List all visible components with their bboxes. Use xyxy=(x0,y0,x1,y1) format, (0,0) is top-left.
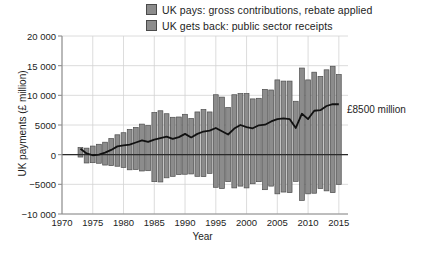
y-axis-tick: −5000 xyxy=(8,179,56,190)
bar-uk-gets-back xyxy=(324,155,329,191)
bar-uk-gets-back xyxy=(195,155,200,177)
bar-uk-gets-back xyxy=(232,155,237,188)
bar-uk-gets-back xyxy=(140,155,145,171)
bar-uk-gets-back xyxy=(170,155,175,177)
bar-uk-gets-back xyxy=(250,155,255,184)
bar-uk-gets-back xyxy=(269,155,274,186)
bar-uk-pays xyxy=(275,80,280,155)
bar-uk-gets-back xyxy=(263,155,268,190)
bar-uk-gets-back xyxy=(152,155,157,182)
legend-label-uk-pays: UK pays: gross contributions, rebate app… xyxy=(162,4,372,16)
bar-uk-pays xyxy=(170,117,175,154)
bar-uk-pays xyxy=(213,95,218,155)
bar-uk-pays xyxy=(127,129,132,154)
legend-label-uk-gets-back: UK gets back: public sector receipts xyxy=(162,20,333,32)
bar-uk-gets-back xyxy=(312,155,317,194)
y-axis-tick: 20 000 xyxy=(8,31,56,42)
bar-uk-gets-back xyxy=(121,155,126,168)
bar-uk-pays xyxy=(263,89,268,154)
bar-uk-gets-back xyxy=(201,155,206,177)
bar-uk-pays xyxy=(300,68,305,155)
legend-item-uk-pays: UK pays: gross contributions, rebate app… xyxy=(146,2,436,17)
bar-uk-gets-back xyxy=(133,155,138,170)
y-axis-tick: 10 000 xyxy=(8,90,56,101)
bar-uk-gets-back xyxy=(256,155,261,182)
bar-uk-pays xyxy=(115,135,120,155)
bar-uk-gets-back xyxy=(318,155,323,189)
bar-uk-gets-back xyxy=(238,155,243,186)
bar-uk-gets-back xyxy=(293,155,298,182)
legend-swatch-icon xyxy=(146,4,157,15)
bar-uk-pays xyxy=(146,126,151,155)
y-axis-tick: 0 xyxy=(8,149,56,160)
bar-uk-pays xyxy=(324,70,329,155)
net-contribution-annotation: £8500 million xyxy=(347,104,406,115)
y-axis-tick-labels: −10 000−50000500010 00015 00020 000 xyxy=(4,0,56,253)
bar-uk-gets-back xyxy=(146,155,151,171)
bar-uk-gets-back xyxy=(189,155,194,174)
bar-uk-gets-back xyxy=(336,155,341,185)
legend-item-uk-gets-back: UK gets back: public sector receipts xyxy=(146,18,436,33)
bar-uk-pays xyxy=(158,111,163,155)
bar-uk-pays xyxy=(318,76,323,154)
bar-uk-pays xyxy=(164,114,169,155)
bar-uk-pays xyxy=(90,146,95,155)
bar-uk-gets-back xyxy=(109,155,114,166)
bar-uk-gets-back xyxy=(220,155,225,189)
bar-uk-gets-back xyxy=(330,155,335,193)
y-axis-tick: 15 000 xyxy=(8,60,56,71)
bar-uk-gets-back xyxy=(164,155,169,178)
legend-swatch-icon xyxy=(146,20,157,31)
bar-uk-gets-back xyxy=(127,155,132,170)
bar-uk-gets-back xyxy=(207,155,212,174)
bar-uk-gets-back xyxy=(306,155,311,194)
bar-uk-gets-back xyxy=(183,155,188,175)
bar-uk-pays xyxy=(97,144,102,154)
bar-uk-gets-back xyxy=(226,155,231,182)
bar-uk-pays xyxy=(330,66,335,154)
bar-uk-gets-back xyxy=(281,155,286,192)
bar-uk-pays xyxy=(207,112,212,155)
y-axis-tick: 5000 xyxy=(8,120,56,131)
bar-uk-pays xyxy=(220,97,225,155)
bar-uk-pays xyxy=(226,107,231,154)
bar-uk-gets-back xyxy=(84,155,89,163)
bar-uk-gets-back xyxy=(97,155,102,164)
chart-container: UK pays: gross contributions, rebate app… xyxy=(0,0,441,253)
bar-uk-pays xyxy=(287,81,292,155)
bar-uk-pays xyxy=(232,95,237,155)
chart-legend: UK pays: gross contributions, rebate app… xyxy=(146,2,436,34)
plot-area xyxy=(0,0,441,253)
bar-uk-gets-back xyxy=(244,155,249,188)
bar-uk-gets-back xyxy=(103,155,108,165)
x-axis-tick: 2015 xyxy=(319,217,359,228)
bar-uk-pays xyxy=(244,94,249,155)
bar-uk-pays xyxy=(152,113,157,155)
bar-uk-pays xyxy=(336,75,341,155)
x-axis-title: Year xyxy=(60,231,345,242)
bar-uk-pays xyxy=(140,124,145,155)
bar-uk-gets-back xyxy=(115,155,120,167)
bar-uk-gets-back xyxy=(158,155,163,182)
bar-uk-gets-back xyxy=(275,155,280,194)
bar-uk-gets-back xyxy=(176,155,181,175)
bar-uk-pays xyxy=(109,139,114,155)
bar-uk-pays xyxy=(121,133,126,155)
bar-uk-gets-back xyxy=(300,155,305,201)
bar-uk-gets-back xyxy=(287,155,292,193)
bar-uk-gets-back xyxy=(213,155,218,188)
